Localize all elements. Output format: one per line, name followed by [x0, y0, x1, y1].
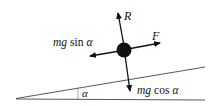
mg-sin-arrow: [90, 51, 120, 56]
mg-cos-arrow: [125, 55, 130, 91]
free-body-diagram: R F mgsinα mgcosα α: [0, 0, 218, 106]
particle: [117, 43, 132, 58]
ground-line: [16, 99, 205, 100]
label-angle: α: [82, 87, 88, 99]
label-mg-cos: mgcosα: [137, 84, 179, 97]
label-mg-sin: mgsinα: [53, 36, 93, 49]
friction-arrow: [128, 43, 160, 49]
label-friction: F: [151, 29, 160, 43]
label-normal-force: R: [123, 9, 132, 23]
